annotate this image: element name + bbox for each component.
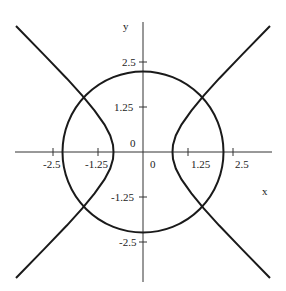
x-tick-label: 2.5 <box>235 158 249 170</box>
origin-label: 0 <box>130 137 136 149</box>
plot: y x 2.5 1.25 0 -1.25 -2.5 -2.5 -1.25 0 1… <box>0 0 286 291</box>
x-tick-label: -1.25 <box>85 158 108 170</box>
x-tick-label: 0 <box>150 158 156 170</box>
y-axis-label: y <box>123 20 129 32</box>
y-tick-label: -1.25 <box>111 191 134 203</box>
x-tick-label: 1.25 <box>191 158 211 170</box>
x-axis-label: x <box>262 185 268 197</box>
y-tick-label: -2.5 <box>119 236 137 248</box>
y-tick-label: 2.5 <box>122 56 136 68</box>
x-tick-label: -2.5 <box>43 158 61 170</box>
y-tick-label: 1.25 <box>114 101 134 113</box>
